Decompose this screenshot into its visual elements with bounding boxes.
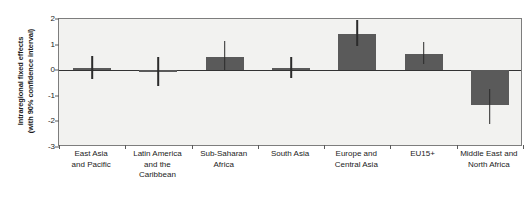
y-tick-label: -3 <box>48 142 55 151</box>
x-category-label-line: and the <box>144 160 171 169</box>
confidence-interval-whisker <box>158 57 160 85</box>
x-category-label: Europe andCentral Asia <box>335 149 378 170</box>
x-category-label: East Asiaand Pacific <box>72 149 111 170</box>
x-category-label: Middle East andNorth Africa <box>460 149 517 170</box>
x-category-label-line: North Africa <box>468 160 510 169</box>
plot-area <box>58 18 522 146</box>
x-category-label-line: Latin America <box>133 149 181 158</box>
confidence-interval-whisker <box>224 41 226 70</box>
x-tick-mark <box>523 145 524 149</box>
y-axis-tick-labels: 210-1-2-3 <box>40 18 55 146</box>
y-tick-mark <box>55 95 59 96</box>
y-tick-label: -2 <box>48 116 55 125</box>
confidence-interval-whisker <box>91 56 93 79</box>
x-category-label-line: Europe and <box>336 149 377 158</box>
confidence-interval-whisker <box>489 89 491 124</box>
x-category-label-line: Central Asia <box>335 160 378 169</box>
confidence-interval-whisker <box>356 20 358 46</box>
y-tick-mark <box>55 121 59 122</box>
y-tick-mark <box>55 70 59 71</box>
confidence-interval-whisker <box>423 42 425 64</box>
x-category-label: South Asia <box>271 149 309 160</box>
x-category-label: EU15+ <box>410 149 435 160</box>
chart-figure: Intraregional fixed effects (with 90% co… <box>0 0 530 197</box>
x-category-label: Latin Americaand theCaribbean <box>133 149 181 181</box>
y-axis-title: Intraregional fixed effects (with 90% co… <box>8 16 42 146</box>
x-category-label-line: and Pacific <box>72 160 111 169</box>
x-category-label-line: Sub-Saharan <box>200 149 247 158</box>
y-tick-mark <box>55 44 59 45</box>
confidence-interval-whisker <box>290 57 292 77</box>
y-axis-title-line1: Intraregional fixed effects <box>16 37 25 126</box>
x-category-label: Sub-SaharanAfrica <box>200 149 247 170</box>
x-category-label-line: East Asia <box>74 149 107 158</box>
x-category-label-line: South Asia <box>271 149 309 158</box>
x-category-label-line: Caribbean <box>139 170 176 179</box>
x-category-label-line: Middle East and <box>460 149 517 158</box>
x-axis-category-labels: East Asiaand PacificLatin Americaand the… <box>58 149 522 195</box>
y-axis-title-line2: (with 90% confidence interval) <box>25 29 34 134</box>
x-category-label-line: Africa <box>213 160 233 169</box>
y-tick-label: -1 <box>48 90 55 99</box>
x-category-label-line: EU15+ <box>410 149 435 158</box>
y-tick-mark <box>55 19 59 20</box>
